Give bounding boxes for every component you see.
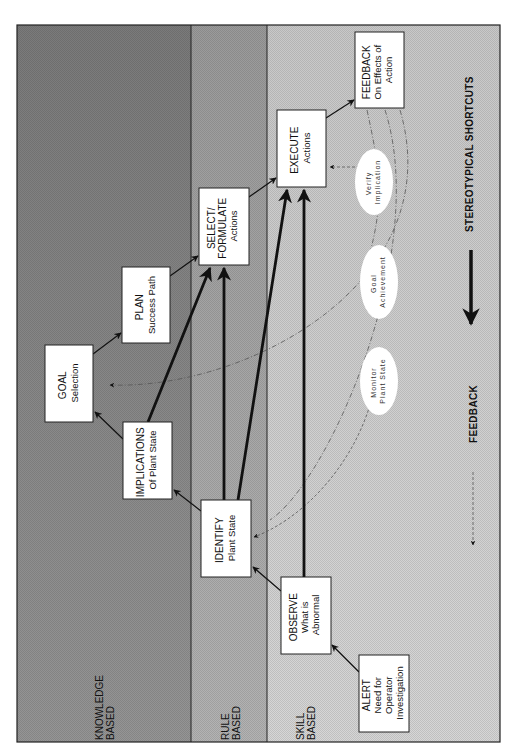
svg-text:GOAL Selection: GOAL Selection [52, 363, 80, 402]
ellipse-monitor-plant-state: Monitor Plant State [360, 347, 398, 415]
legend-feedback: FEEDBACK [468, 385, 479, 443]
box-goal: GOAL Selection [45, 345, 93, 422]
box-execute: EXECUTE Actions [277, 110, 326, 187]
box-feedback: FEEDBACK On Effects of Action [355, 32, 404, 108]
ellipse-verify-implication: Verify Implication [355, 149, 393, 215]
band-label-skill: SKILL BASED [295, 706, 317, 740]
band-label-rule: RULE BASED [220, 706, 242, 740]
svg-text:IMPLICATIONS Of Plant St: IMPLICATIONS Of Plant State [130, 423, 158, 497]
ellipse-goal-achievement: Goal Achievement [360, 245, 398, 319]
box-plan: PLAN Success Path [122, 267, 170, 343]
box-observe: OBSERVE What is Abnormal [281, 577, 331, 654]
box-alert: ALERT Need for Operator Investigation [356, 655, 409, 732]
legend-stereotypical-shortcuts: STEREOTYPICAL SHORTCUTS [464, 76, 475, 232]
skill-rule-knowledge-diagram: KNOWLEDGE BASED RULE BASED SKILL BASED V… [0, 0, 514, 752]
box-implications: IMPLICATIONS Of Plant State [123, 422, 172, 499]
svg-text:IDENTIFY Plant State: IDENTIFY Plant State [209, 513, 237, 563]
box-select-formulate: SELECT/ FORMULATE Actions [199, 188, 249, 265]
box-identify: IDENTIFY Plant State [201, 500, 251, 577]
